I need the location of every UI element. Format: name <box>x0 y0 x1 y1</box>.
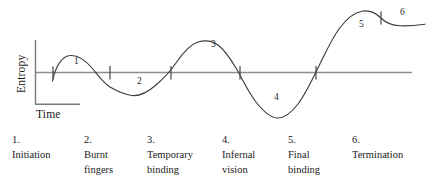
legend-item-1-index: 1. <box>12 132 51 147</box>
legend-item-5-label-line1: Final <box>288 147 320 162</box>
legend-item-4-label-line2: vision <box>222 162 255 177</box>
plot-area: Entropy Time 1 2 3 4 5 6 <box>0 0 432 130</box>
y-axis-title: Entropy <box>14 40 28 108</box>
legend-item-4: 4. Infernal vision <box>222 132 255 177</box>
curve-annotation-3: 3 <box>211 40 216 50</box>
curve-annotation-5: 5 <box>359 20 364 30</box>
entropy-curve-svg <box>0 0 432 130</box>
legend-item-5-label-line2: binding <box>288 162 320 177</box>
legend-item-1: 1. Initiation <box>12 132 51 162</box>
legend-item-4-index: 4. <box>222 132 255 147</box>
entropy-time-diagram: Entropy Time 1 2 3 4 5 6 1. Initiation 2… <box>0 0 432 191</box>
curve-annotation-6: 6 <box>400 8 405 18</box>
legend-item-3-index: 3. <box>147 132 193 147</box>
legend-item-6: 6. Termination <box>352 132 403 162</box>
legend-item-3-label-line1: Temporary <box>147 147 193 162</box>
legend-item-6-index: 6. <box>352 132 403 147</box>
legend-item-1-label-line1: Initiation <box>12 147 51 162</box>
x-axis-title: Time <box>36 108 61 120</box>
curve-annotation-1: 1 <box>74 57 79 67</box>
legend-item-6-label-line1: Termination <box>352 147 403 162</box>
legend-item-2-label-line2: fingers <box>84 162 113 177</box>
legend-item-5-index: 5. <box>288 132 320 147</box>
legend-item-2: 2. Burnt fingers <box>84 132 113 177</box>
curve-annotation-2: 2 <box>137 77 142 87</box>
curve-annotation-4: 4 <box>274 93 279 103</box>
legend-item-5: 5. Final binding <box>288 132 320 177</box>
legend-item-4-label-line1: Infernal <box>222 147 255 162</box>
entropy-curve <box>53 11 426 118</box>
legend-item-3-label-line2: binding <box>147 162 193 177</box>
legend-item-3: 3. Temporary binding <box>147 132 193 177</box>
legend-row: 1. Initiation 2. Burnt fingers 3. Tempor… <box>0 132 432 191</box>
legend-item-2-label-line1: Burnt <box>84 147 113 162</box>
legend-item-2-index: 2. <box>84 132 113 147</box>
